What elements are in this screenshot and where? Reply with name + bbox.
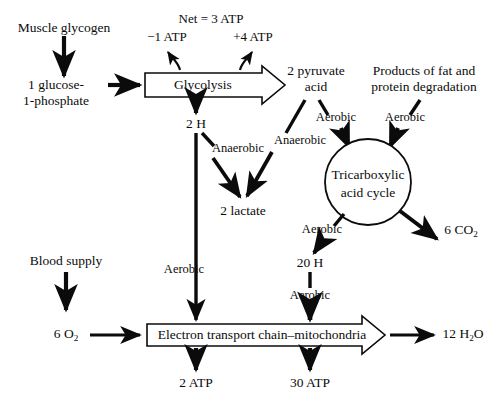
node-30-atp: 30 ATP <box>290 375 330 390</box>
node-2-atp: 2 ATP <box>179 375 212 390</box>
node-co2: 6 CO2 <box>444 222 477 239</box>
condition-aerobic-tca-to-20h: Aerobic <box>302 222 342 236</box>
node-muscle-glycogen: Muscle glycogen <box>18 20 111 35</box>
arrow-anaerobic-right-branch <box>247 152 272 196</box>
o2-subscript: 2 <box>74 333 79 343</box>
node-pyruvate-line1: 2 pyruvate <box>287 63 344 78</box>
condition-aerobic-pyruvate-to-tca: Aerobic <box>316 110 356 124</box>
atp-gain-label: +4 ATP <box>233 30 272 45</box>
node-fat-protein-line1: Products of fat and <box>373 63 475 78</box>
condition-aerobic-2h-to-etc: Aerobic <box>164 262 204 276</box>
condition-anaerobic-from-2h: Anaerobic <box>212 141 264 155</box>
co2-subscript: 2 <box>473 229 478 239</box>
arrow-glycolysis-to-plus4atp <box>240 52 252 70</box>
condition-aerobic-20h-to-etc: Aerobic <box>290 288 330 302</box>
atp-cost-label: −1 ATP <box>147 30 186 45</box>
node-o2: 6 O2 <box>54 326 78 343</box>
node-fat-protein-line2: protein degradation <box>371 79 476 94</box>
node-2h: 2 H <box>186 116 206 131</box>
arrow-tca-to-co2 <box>400 211 437 239</box>
node-glucose-1-phosphate-line1: 1 glucose- <box>28 77 84 92</box>
node-blood-supply: Blood supply <box>30 253 102 268</box>
arrow-pyruvate-to-anaerobic <box>286 100 305 133</box>
node-pyruvate-line2: acid <box>305 79 328 94</box>
node-h2o: 12 H2O <box>443 326 484 343</box>
arrow-aerobic-fat-into-tca <box>390 128 398 147</box>
arrow-aerobic-to-20h <box>314 240 323 253</box>
node-tca-line2: acid cycle <box>341 185 395 200</box>
co2-text: 6 CO <box>444 222 473 237</box>
node-glucose-1-phosphate-line2: 1-phosphate <box>23 93 89 108</box>
condition-anaerobic-from-pyruvate: Anaerobic <box>274 133 326 147</box>
node-glycolysis: Glycolysis <box>174 77 232 92</box>
node-20h: 20 H <box>297 255 324 270</box>
condition-aerobic-fat-to-tca: Aerobic <box>385 110 425 124</box>
node-tca-line1: Tricarboxylic <box>332 167 405 182</box>
node-electron-transport-chain: Electron transport chain–mitochondria <box>158 327 366 342</box>
o2-text: 6 O <box>54 326 74 341</box>
node-2-lactate: 2 lactate <box>220 203 265 218</box>
arrow-glycolysis-to-minus1atp <box>168 52 180 70</box>
h2o-tail: O <box>474 326 484 341</box>
arrow-anaerobic-left-branch <box>213 158 240 197</box>
atp-net-label: Net = 3 ATP <box>179 12 244 27</box>
metabolic-pathway-diagram: Muscle glycogen 1 glucose- 1-phosphate N… <box>0 0 497 409</box>
h2o-text: 12 H <box>443 326 470 341</box>
